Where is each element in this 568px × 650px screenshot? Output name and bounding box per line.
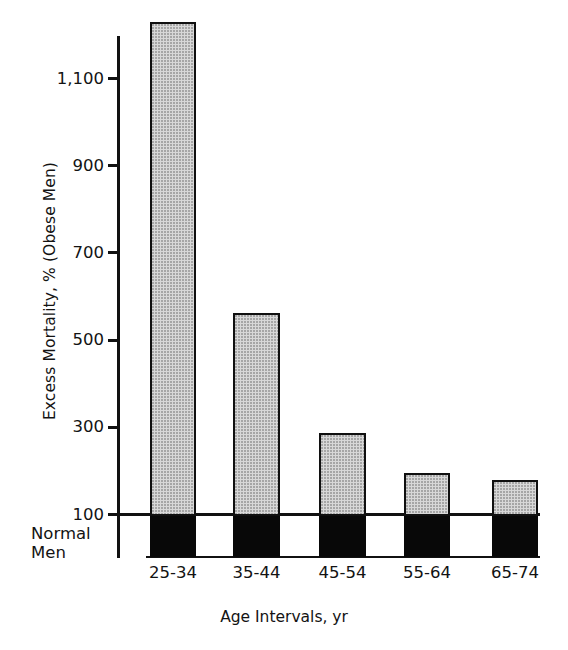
normal-men-annotation: Normal Men xyxy=(31,524,91,562)
x-axis-title: Age Intervals, yr xyxy=(0,608,568,626)
bar-normal-segment xyxy=(150,516,196,557)
y-axis-tick-label-text: 1,100 xyxy=(0,69,104,88)
bar-normal-segment xyxy=(319,516,366,557)
bar-normal-segment xyxy=(404,516,450,557)
y-axis-line xyxy=(117,36,120,558)
bar-excess-segment xyxy=(492,480,538,516)
x-axis-category-label: 55-64 xyxy=(377,563,477,582)
y-axis-tick-label-text: 100 xyxy=(0,505,104,524)
x-axis-category-label: 35-44 xyxy=(207,563,307,582)
bar-excess-segment xyxy=(233,313,280,516)
y-axis-tick-label: 1,100 xyxy=(0,69,104,87)
bar-excess-segment xyxy=(150,22,196,517)
x-axis-category-label: 65-74 xyxy=(465,563,565,582)
y-axis-tick xyxy=(108,513,119,516)
normal-men-line2: Men xyxy=(31,543,91,562)
normal-men-line1: Normal xyxy=(31,524,91,543)
y-axis-tick-label: 700 xyxy=(0,243,104,261)
bar-excess-segment xyxy=(404,473,450,516)
y-axis-tick xyxy=(108,339,119,342)
y-axis-tick-label: 500 xyxy=(0,330,104,348)
y-axis-tick xyxy=(108,164,119,167)
y-axis-tick-label-text: 700 xyxy=(0,243,104,262)
bar-normal-segment xyxy=(233,516,280,557)
y-axis-tick-label-text: 300 xyxy=(0,417,104,436)
y-axis-tick xyxy=(108,77,119,80)
y-axis-tick-label-text: 500 xyxy=(0,330,104,349)
y-axis-tick xyxy=(108,426,119,429)
y-axis-tick-label: 300 xyxy=(0,417,104,435)
y-axis-tick-label: 100 xyxy=(0,505,104,523)
bar-normal-segment xyxy=(492,516,538,557)
chart-figure: Excess Mortality, % (Obese Men) 10030050… xyxy=(0,0,568,650)
bar-excess-segment xyxy=(319,433,366,517)
y-axis-tick-label: 900 xyxy=(0,156,104,174)
y-axis-tick-label-text: 900 xyxy=(0,156,104,175)
y-axis-tick xyxy=(108,251,119,254)
